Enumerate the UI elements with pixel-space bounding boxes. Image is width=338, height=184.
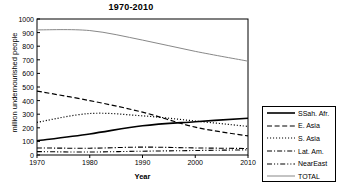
legend-item-neareast[interactable]: NearEast <box>263 157 335 170</box>
axis-frame <box>37 19 248 155</box>
legend-line-sample <box>266 107 296 119</box>
legend-item-label: NearEast <box>298 160 327 167</box>
legend-line-sample <box>266 170 296 182</box>
series-line-total <box>37 30 248 62</box>
series-line-lat-am <box>37 147 248 148</box>
chart-legend: SSah. Afr.E. AsiaS. AsiaLat. Am.NearEast… <box>262 106 336 182</box>
legend-item-ssah-afr[interactable]: SSah. Afr. <box>263 107 335 120</box>
legend-item-e-asia[interactable]: E. Asia <box>263 120 335 133</box>
legend-item-label: TOTAL <box>298 173 320 180</box>
chart-figure: 1970-2010 million undernourished people … <box>0 0 338 184</box>
legend-item-total[interactable]: TOTAL <box>263 170 335 183</box>
legend-line-sample <box>266 158 296 170</box>
legend-item-label: Lat. Am. <box>298 148 324 155</box>
legend-line-sample <box>266 120 296 132</box>
series-line-e-asia <box>37 91 248 136</box>
series-line-ssah-afr <box>37 118 248 140</box>
legend-item-label: S. Asia <box>298 135 320 142</box>
legend-line-sample <box>266 145 296 157</box>
data-series-group <box>37 30 248 152</box>
series-line-neareast <box>37 150 248 152</box>
legend-item-label: SSah. Afr. <box>298 110 329 117</box>
legend-item-lat-am[interactable]: Lat. Am. <box>263 145 335 158</box>
legend-line-sample <box>266 132 296 144</box>
legend-item-label: E. Asia <box>298 122 320 129</box>
legend-item-s-asia[interactable]: S. Asia <box>263 132 335 145</box>
